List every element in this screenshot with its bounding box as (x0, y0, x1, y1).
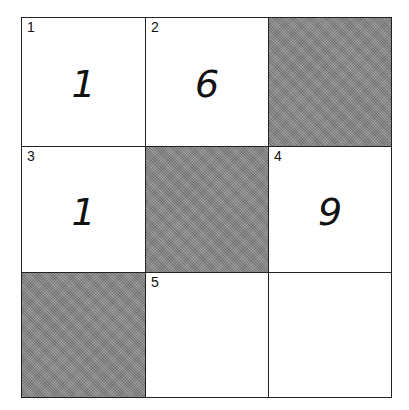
cell-r3c2[interactable]: 5 (145, 272, 268, 397)
cell-r1c1[interactable]: 1 1 (22, 18, 145, 146)
cell-r2c1[interactable]: 3 1 (22, 146, 145, 272)
cell-value: 9 (269, 189, 391, 233)
cell-value: 1 (22, 189, 145, 233)
shaded-cell-r3c1 (22, 272, 145, 397)
cell-value: 6 (146, 62, 268, 106)
shaded-cell-r1c3 (268, 18, 391, 146)
cross-number-grid: 1 1 2 6 3 1 4 9 5 (21, 17, 392, 398)
clue-number: 5 (151, 275, 159, 289)
cell-r1c2[interactable]: 2 6 (145, 18, 268, 146)
cell-r2c3[interactable]: 4 9 (268, 146, 391, 272)
cell-r3c3[interactable] (268, 272, 391, 397)
clue-number: 2 (151, 20, 159, 34)
clue-number: 4 (274, 149, 282, 163)
cell-value: 1 (22, 62, 145, 106)
shaded-cell-r2c2 (145, 146, 268, 272)
clue-number: 3 (27, 149, 35, 163)
clue-number: 1 (27, 20, 35, 34)
